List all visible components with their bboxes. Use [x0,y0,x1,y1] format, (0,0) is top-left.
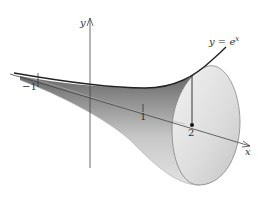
tick-label-minus-one: −1 [22,82,37,92]
curve-label: y = ex [209,36,239,47]
tick-label-two: 2 [188,128,194,138]
tick-label-one: 1 [140,112,146,122]
solid-of-revolution-figure: y x −1 1 2 y = ex [0,0,259,202]
y-axis-label: y [80,18,86,28]
surface-drawing [0,0,259,202]
x-axis-label: x [245,147,251,157]
